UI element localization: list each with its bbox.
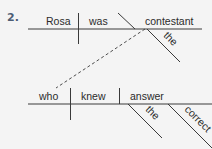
relative-connector (56, 29, 145, 88)
relative-object: answer (130, 90, 164, 102)
sentence-diagram: 2. Rosa was contestant the who knew answ… (0, 0, 212, 149)
modifier-the-1: the (162, 29, 181, 48)
predicate-nominative-divider (118, 13, 135, 29)
modifier-correct: correct (183, 103, 212, 134)
exercise-number: 2. (7, 11, 19, 24)
relative-verb: knew (81, 90, 106, 102)
main-subject: Rosa (46, 15, 71, 27)
main-verb: was (88, 15, 108, 27)
modifier-the-2: the (144, 103, 163, 122)
main-predicate-nominative: contestant (145, 15, 194, 27)
relative-subject: who (38, 90, 58, 102)
